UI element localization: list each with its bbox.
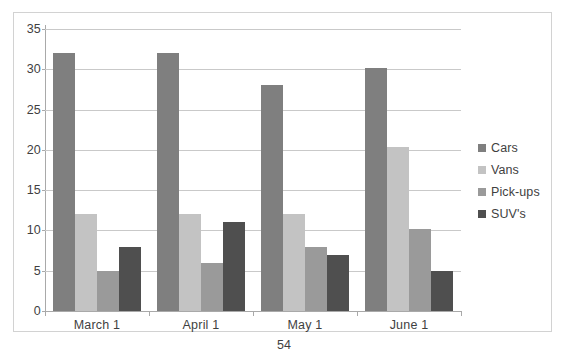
legend-item[interactable]: Pick-ups	[478, 181, 552, 203]
y-tick-label-0: 0	[15, 305, 41, 318]
bar[interactable]	[327, 255, 349, 311]
x-tick-mark	[149, 311, 150, 316]
page-number: 54	[0, 338, 568, 352]
chart-legend: CarsVansPick-upsSUV's	[478, 137, 552, 225]
x-tick-label: April 1	[149, 319, 253, 332]
y-axis-labels: 05101520253035	[14, 13, 41, 333]
x-tick-label: May 1	[253, 319, 357, 332]
x-tick-mark	[461, 311, 462, 316]
bar[interactable]	[75, 214, 97, 311]
bar-group	[53, 29, 141, 311]
bar[interactable]	[97, 271, 119, 311]
bar[interactable]	[223, 222, 245, 311]
bar[interactable]	[261, 85, 283, 311]
y-tick-label-15: 15	[15, 184, 41, 197]
x-tick-mark	[357, 311, 358, 316]
chart-frame: 05101520253035 March 1April 1May 1June 1…	[13, 12, 552, 332]
legend-item[interactable]: SUV's	[478, 203, 552, 225]
legend-item-label: Vans	[491, 164, 519, 177]
bar[interactable]	[305, 247, 327, 311]
legend-item[interactable]: Cars	[478, 137, 552, 159]
bar-group	[365, 29, 453, 311]
x-tick-mark	[253, 311, 254, 316]
bar[interactable]	[179, 214, 201, 311]
plot-area	[45, 29, 461, 311]
bar[interactable]	[365, 68, 387, 311]
bar[interactable]	[283, 214, 305, 311]
legend-swatch-icon	[478, 188, 486, 196]
legend-item-label: Cars	[491, 142, 518, 155]
y-tick-label-10: 10	[15, 224, 41, 237]
x-tick-mark	[45, 311, 46, 316]
legend-swatch-icon	[478, 166, 486, 174]
bar[interactable]	[157, 53, 179, 311]
legend-item[interactable]: Vans	[478, 159, 552, 181]
bar[interactable]	[387, 147, 409, 311]
bar-group	[157, 29, 245, 311]
bar[interactable]	[431, 271, 453, 311]
bar[interactable]	[201, 263, 223, 311]
bar-group	[261, 29, 349, 311]
bar[interactable]	[119, 247, 141, 311]
bar[interactable]	[409, 229, 431, 311]
legend-swatch-icon	[478, 210, 486, 218]
legend-item-label: Pick-ups	[491, 186, 540, 199]
legend-item-label: SUV's	[491, 208, 526, 221]
x-tick-label: March 1	[45, 319, 149, 332]
y-tick-label-30: 30	[15, 63, 41, 76]
y-tick-label-25: 25	[15, 104, 41, 117]
legend-swatch-icon	[478, 144, 486, 152]
y-tick-label-35: 35	[15, 23, 41, 36]
bar[interactable]	[53, 53, 75, 311]
x-tick-label: June 1	[357, 319, 461, 332]
y-tick-label-5: 5	[15, 265, 41, 278]
y-tick-label-20: 20	[15, 144, 41, 157]
